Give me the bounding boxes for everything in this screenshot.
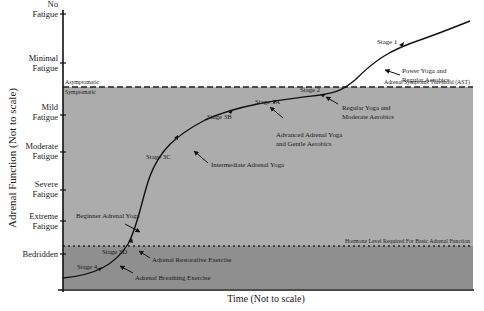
x-axis-title: Time (Not to scale) (227, 293, 305, 305)
adrenal-recovery-diagram: No Fatigue Minimal Fatigue Mild Fatigue … (0, 0, 484, 311)
exercise-label: Adrenal Restorative Exercise (152, 256, 232, 263)
y-level-label: Fatigue (33, 112, 59, 122)
exercise-label: Advanced Adrenal Yoga (276, 131, 342, 138)
exercise-label: Power Yoga and (402, 67, 447, 74)
y-level-label: Fatigue (33, 63, 59, 73)
asymptomatic-label: Asymptomatic (65, 79, 100, 85)
stage-label: Stage 3D (102, 248, 127, 255)
y-level-label: Bedridden (23, 249, 59, 259)
stage-label: Stage 3C (146, 153, 171, 160)
stage-label: Stage 3B (207, 113, 232, 120)
y-level-label: Fatigue (33, 189, 59, 199)
y-level-label: No (48, 0, 58, 9)
exercise-label: Regular Yoga and (342, 104, 391, 111)
y-level-label: Fatigue (33, 221, 59, 231)
y-level-label: Mild (41, 102, 58, 112)
exercise-label: Moderate Aerobics (342, 113, 394, 120)
y-level-label: Severe (35, 179, 58, 189)
y-level-label: Fatigue (33, 9, 59, 19)
basic-function-label: Hormone Level Required For Basic Adrenal… (345, 238, 470, 244)
y-level-label: Minimal (29, 53, 59, 63)
symptomatic-label: Symptomatic (65, 89, 96, 95)
stage-label: Stage 3A (255, 98, 280, 105)
exercise-label: Adrenal Breathing Exercise (135, 274, 211, 281)
y-level-label: Moderate (25, 141, 58, 151)
exercise-label: Beginner Adrenal Yoga (76, 212, 140, 219)
stage-label: Stage 2 (300, 86, 321, 93)
y-level-label: Fatigue (33, 151, 59, 161)
exercise-label: and Gentle Aerobics (276, 140, 332, 147)
stage-label: Stage 4 (77, 263, 98, 270)
exercise-label: Intermediate Adrenal Yoga (211, 161, 284, 168)
y-level-label: Extreme (29, 211, 58, 221)
exercise-label: Regular Aerobics (402, 76, 450, 83)
y-level-labels: No Fatigue Minimal Fatigue Mild Fatigue … (23, 0, 59, 259)
stage-label: Stage 1 (377, 38, 397, 45)
y-axis-title: Adrenal Function (Not to scale) (6, 88, 19, 228)
